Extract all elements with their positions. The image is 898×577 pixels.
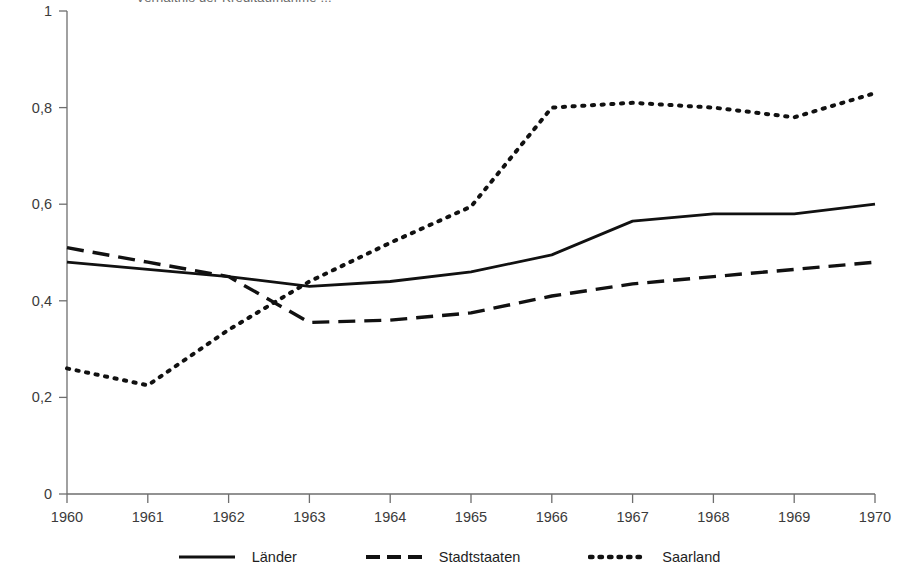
x-tick-label: 1962 (212, 509, 244, 525)
y-axis: 00,20,40,60,81 (32, 3, 67, 502)
chart-legend: Länder Stadtstaaten Saarland (0, 540, 898, 574)
legend-item-stadtstaaten: Stadtstaaten (365, 549, 520, 565)
legend-label-stadtstaaten: Stadtstaaten (439, 549, 520, 565)
x-tick-label: 1961 (132, 509, 164, 525)
legend-label-saarland: Saarland (662, 549, 720, 565)
series-line-stadtstaaten (67, 248, 875, 323)
x-tick-label: 1967 (616, 509, 648, 525)
x-tick-label: 1963 (293, 509, 325, 525)
legend-item-laender: Länder (178, 549, 297, 565)
chart-page: Verhältnis der Kreditaufnahme ... 00,20,… (0, 0, 898, 577)
x-tick-label: 1966 (536, 509, 568, 525)
y-tick-label: 0 (44, 486, 52, 502)
x-tick-label: 1964 (374, 509, 406, 525)
legend-swatch-dotted-icon (588, 550, 646, 564)
y-tick-label: 1 (44, 3, 52, 19)
legend-swatch-dashed-icon (365, 550, 423, 564)
x-tick-label: 1960 (51, 509, 83, 525)
plot-area: 00,20,40,60,81 1960196119621963196419651… (0, 0, 898, 530)
x-axis: 1960196119621963196419651966196719681969… (51, 494, 891, 525)
x-tick-label: 1965 (455, 509, 487, 525)
y-tick-label: 0,8 (32, 100, 52, 116)
legend-label-laender: Länder (252, 549, 297, 565)
y-tick-label: 0,4 (32, 293, 52, 309)
x-tick-label: 1970 (859, 509, 891, 525)
series-lines (67, 93, 875, 385)
y-tick-label: 0,6 (32, 196, 52, 212)
x-tick-label: 1968 (697, 509, 729, 525)
x-tick-label: 1969 (778, 509, 810, 525)
y-tick-label: 0,2 (32, 389, 52, 405)
legend-item-saarland: Saarland (588, 549, 720, 565)
series-line-saarland (67, 93, 875, 385)
line-chart-svg: 00,20,40,60,81 1960196119621963196419651… (0, 0, 898, 530)
legend-swatch-solid-icon (178, 550, 236, 564)
